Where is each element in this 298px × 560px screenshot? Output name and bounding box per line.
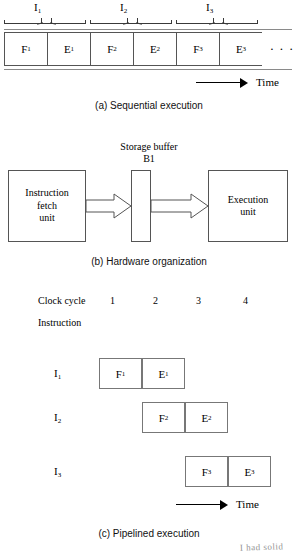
brace-i1 bbox=[4, 18, 86, 26]
pipe-cell-f1: F1 bbox=[99, 358, 142, 389]
pipelining-figure: I1 I2 I3 F1 E1 F2 E2 F3 E3 · · · bbox=[0, 0, 298, 560]
clock-cycle-4: 4 bbox=[243, 296, 248, 306]
exec-unit-line1: Execution bbox=[228, 194, 269, 207]
group-label-i2: I2 bbox=[120, 2, 127, 15]
clock-cycle-3: 3 bbox=[196, 296, 201, 306]
time-arrow-c bbox=[176, 500, 230, 510]
exec-unit-line2: unit bbox=[228, 206, 269, 219]
pipe-cell-e1: E1 bbox=[142, 358, 185, 389]
clock-cycle-2: 2 bbox=[153, 296, 158, 306]
instruction-axis-label: Instruction bbox=[38, 318, 81, 328]
caption-a: (a) Sequential execution bbox=[0, 100, 298, 111]
caption-c: (c) Pipelined execution bbox=[0, 528, 298, 539]
clock-cycle-1: 1 bbox=[110, 296, 115, 306]
brace-i2 bbox=[90, 18, 172, 26]
caption-b: (b) Hardware organization bbox=[0, 256, 298, 267]
sequence-top-rule bbox=[4, 29, 292, 30]
sequential-cell-row: F1 E1 F2 E2 F3 E3 · · · bbox=[4, 32, 298, 66]
group-label-i1: I1 bbox=[34, 2, 41, 15]
fetch-unit-line3: unit bbox=[25, 212, 68, 225]
arrow-fetch-to-buffer bbox=[86, 192, 132, 220]
pipe-cell-f3: F3 bbox=[185, 456, 228, 487]
pipeline-row-label-i1: I1 bbox=[54, 368, 61, 381]
seq-ellipsis: · · · bbox=[262, 32, 298, 66]
storage-buffer-title-line1: Storage buffer bbox=[0, 142, 298, 152]
brace-i3 bbox=[176, 18, 258, 26]
pipe-cell-e2: E2 bbox=[185, 402, 228, 433]
time-label-c: Time bbox=[236, 499, 259, 510]
handwritten-annotation: I had solid bbox=[240, 541, 284, 553]
fetch-unit-line2: fetch bbox=[25, 200, 68, 213]
execution-unit: Execution unit bbox=[208, 170, 288, 242]
time-arrow-a bbox=[196, 78, 250, 88]
storage-buffer-b1 bbox=[131, 170, 151, 242]
time-label-a: Time bbox=[256, 77, 279, 88]
seq-cell-e3: E3 bbox=[219, 32, 262, 66]
pipeline-row-label-i2: I2 bbox=[54, 412, 61, 425]
clock-cycle-label: Clock cycle bbox=[38, 296, 85, 306]
group-label-i3: I3 bbox=[206, 2, 213, 15]
seq-cell-f3: F3 bbox=[176, 32, 219, 66]
seq-cell-f1: F1 bbox=[4, 32, 47, 66]
instruction-fetch-unit: Instruction fetch unit bbox=[8, 170, 86, 242]
pipeline-row-label-i3: I3 bbox=[54, 466, 61, 479]
storage-buffer-title-line2: B1 bbox=[0, 154, 298, 164]
seq-cell-f2: F2 bbox=[90, 32, 133, 66]
seq-cell-e1: E1 bbox=[47, 32, 90, 66]
sequence-bottom-rule bbox=[4, 69, 292, 70]
arrow-buffer-to-execution bbox=[151, 192, 209, 220]
pipe-cell-f2: F2 bbox=[142, 402, 185, 433]
seq-cell-e2: E2 bbox=[133, 32, 176, 66]
pipe-cell-e3: E3 bbox=[228, 456, 271, 487]
fetch-unit-line1: Instruction bbox=[25, 187, 68, 200]
